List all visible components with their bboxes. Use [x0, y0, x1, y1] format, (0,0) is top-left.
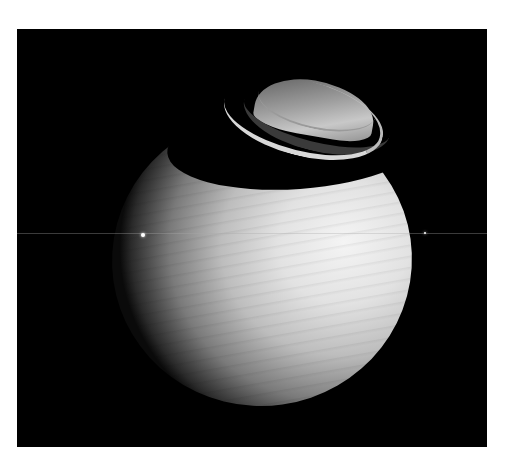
- moon-left: [141, 233, 145, 237]
- moon-right: [424, 232, 426, 234]
- space-background: [17, 29, 487, 447]
- ring-plane-line: [17, 233, 487, 234]
